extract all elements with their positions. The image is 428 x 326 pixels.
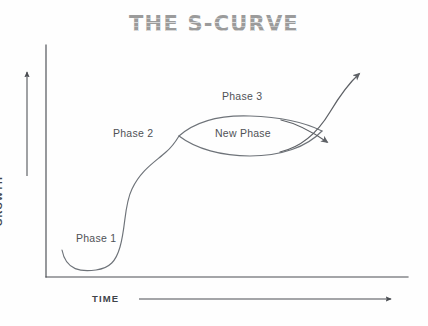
s-curve-diagram <box>0 0 428 326</box>
arrow-up-right-icon <box>280 74 359 152</box>
s-curve-path <box>62 136 179 271</box>
label-phase-2: Phase 2 <box>113 127 153 139</box>
arrow-down-right-icon <box>281 120 327 142</box>
x-axis-label: TIME <box>92 293 119 304</box>
page-title: THE S-CURVE <box>0 11 428 37</box>
y-axis-label: GROWTH <box>0 176 4 226</box>
slide-canvas: THE S-CURVE THE S-CURVE Phase 1 <box>0 0 428 326</box>
label-phase-3: Phase 3 <box>222 90 262 102</box>
label-new-phase: New Phase <box>215 127 271 139</box>
label-phase-1: Phase 1 <box>76 232 116 244</box>
